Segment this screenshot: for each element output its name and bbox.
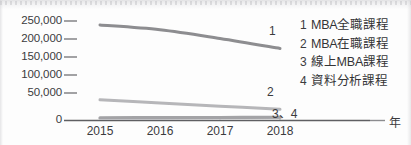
- chart-figure: 250,000 200,000 150,000 100,000 50,000 0…: [0, 0, 411, 145]
- x-label-2016: 2016: [147, 124, 174, 138]
- x-axis-name: 年: [389, 113, 401, 130]
- series-end-label-1: 1: [269, 24, 276, 38]
- legend-label-2: MBA在職課程: [311, 33, 389, 52]
- x-label-2015: 2015: [87, 124, 114, 138]
- legend-label-4: 資料分析課程: [311, 70, 388, 89]
- legend-key-2: 2: [300, 37, 311, 51]
- series-end-label-3-4: 3、4: [272, 104, 297, 121]
- x-label-2018: 2018: [267, 124, 294, 138]
- legend-key-4: 4: [300, 74, 311, 88]
- x-label-2017: 2017: [207, 124, 234, 138]
- legend-item-1: 1 MBA全職課程: [300, 14, 408, 33]
- series-end-label-2: 2: [267, 85, 274, 99]
- legend-item-4: 4 資料分析課程: [300, 70, 408, 89]
- legend-key-1: 1: [300, 18, 311, 32]
- legend-key-3: 3: [300, 55, 311, 69]
- legend-label-3: 線上MBA課程: [311, 51, 389, 70]
- legend-item-3: 3 線上MBA課程: [300, 51, 408, 70]
- chart-legend: 1 MBA全職課程 2 MBA在職課程 3 線上MBA課程 4 資料分析課程: [300, 14, 408, 88]
- legend-label-1: MBA全職課程: [311, 14, 389, 33]
- legend-item-2: 2 MBA在職課程: [300, 33, 408, 52]
